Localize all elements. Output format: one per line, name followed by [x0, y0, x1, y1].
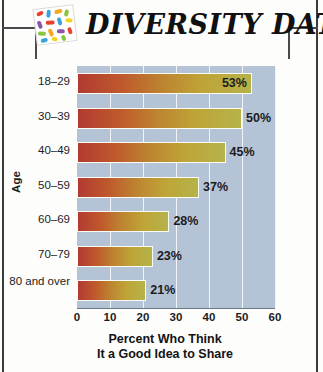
bar-value-label: 23%: [157, 247, 182, 266]
bar[interactable]: [77, 246, 153, 267]
bar-row: 23%: [77, 239, 275, 274]
bar-row: 28%: [77, 204, 275, 239]
bar[interactable]: [77, 108, 242, 129]
x-axis-tick-label: 40: [194, 311, 224, 323]
gridline: [275, 66, 276, 308]
x-axis-tick-label: 10: [95, 311, 125, 323]
x-axis-tick-label: 50: [227, 311, 257, 323]
bar-chart: Age 53%50%45%37%28%23%21% 0102030405060 …: [0, 58, 323, 372]
page-title: DIVERSITY DATA: [86, 5, 291, 47]
bar[interactable]: [77, 211, 169, 232]
bar[interactable]: [77, 280, 146, 301]
bar-row: 53%: [77, 66, 275, 101]
bar-value-label: 21%: [150, 281, 175, 300]
y-axis-category-label: 60–69: [0, 213, 70, 226]
diversity-data-infographic: DIVERSITY DATA Age 53%50%45%37%28%23%21%…: [0, 0, 323, 372]
y-axis-category-label: 40–49: [0, 144, 70, 157]
bar-row: 37%: [77, 170, 275, 205]
x-axis-tick-label: 30: [161, 311, 191, 323]
x-axis-line: [77, 308, 275, 309]
y-axis-category-label: 50–59: [0, 179, 70, 192]
x-axis-title-line1: Percent Who Think: [40, 332, 290, 347]
x-axis-tick-label: 20: [128, 311, 158, 323]
y-axis-category-label: 18–29: [0, 75, 70, 88]
y-axis-category-label: 70–79: [0, 248, 70, 261]
y-axis-category-label: 30–39: [0, 110, 70, 123]
bar-value-label: 45%: [230, 143, 255, 162]
bar[interactable]: [77, 142, 226, 163]
colored-beads-grid-icon: [30, 4, 80, 46]
x-axis-tick-label: 60: [260, 311, 290, 323]
x-axis-tick-label: 0: [62, 311, 92, 323]
plot-area: 53%50%45%37%28%23%21%: [77, 66, 275, 308]
bar-row: 45%: [77, 135, 275, 170]
y-axis-category-label: 80 and over: [0, 275, 70, 288]
bar-value-label: 28%: [173, 212, 198, 231]
bar-value-label: 53%: [222, 74, 247, 93]
x-axis-title: Percent Who Think It a Good Idea to Shar…: [40, 332, 290, 362]
bar-row: 50%: [77, 101, 275, 136]
bar-row: 21%: [77, 273, 275, 308]
bar-value-label: 37%: [203, 178, 228, 197]
bar[interactable]: [77, 177, 199, 198]
header: DIVERSITY DATA: [0, 0, 323, 58]
x-axis-title-line2: It a Good Idea to Share: [40, 347, 290, 362]
bar-value-label: 50%: [246, 109, 271, 128]
